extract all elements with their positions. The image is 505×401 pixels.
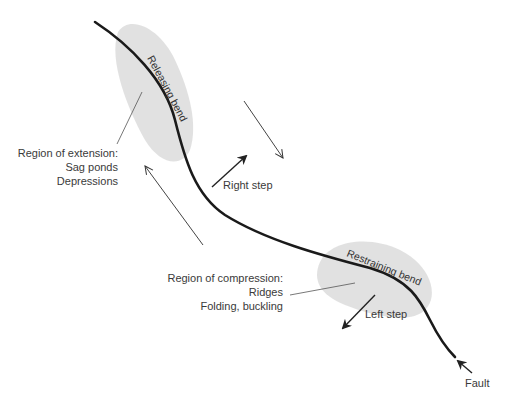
- plate-motion-arrow-right-block: [244, 101, 283, 158]
- fault-label: Fault: [465, 376, 489, 390]
- extension-item-sag-ponds: Sag ponds: [18, 160, 118, 174]
- compression-item-ridges: Ridges: [167, 285, 283, 299]
- left-step-label: Left step: [365, 307, 407, 321]
- compression-title: Region of compression:: [167, 271, 283, 285]
- extension-title: Region of extension:: [18, 146, 118, 160]
- compression-item-folding: Folding, buckling: [167, 299, 283, 313]
- extension-label: Region of extension: Sag ponds Depressio…: [18, 146, 118, 188]
- right-step-label: Right step: [223, 178, 273, 192]
- diagram-canvas: Releasing bend Restraining bend: [0, 0, 505, 401]
- compression-label: Region of compression: Ridges Folding, b…: [167, 271, 283, 313]
- fault-pointer-arrow: [458, 361, 472, 373]
- extension-item-depressions: Depressions: [18, 174, 118, 188]
